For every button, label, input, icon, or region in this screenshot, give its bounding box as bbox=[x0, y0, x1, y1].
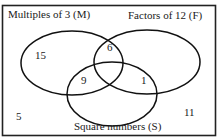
region-m-only: 15 bbox=[35, 50, 46, 61]
region-m-and-s: 9 bbox=[81, 75, 87, 86]
set-f-label: Factors of 12 (F) bbox=[128, 10, 202, 21]
region-outside-right: 11 bbox=[184, 107, 195, 118]
region-outside-left: 5 bbox=[16, 111, 22, 122]
region-f-and-s: 1 bbox=[141, 75, 147, 86]
region-m-and-f: 6 bbox=[107, 42, 113, 53]
set-s-label: Square numbers (S) bbox=[74, 121, 161, 132]
set-m-label: Multiples of 3 (M) bbox=[8, 9, 90, 20]
